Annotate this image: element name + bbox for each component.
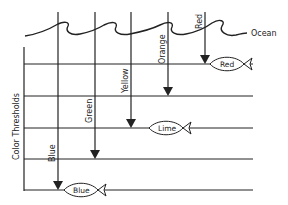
arrowhead-icon [126,119,136,128]
arrow-label-orange: Orange [158,34,167,64]
axis-label: Color Thresholds [12,93,21,160]
arrow-green: Green [85,12,100,159]
arrow-label-green: Green [85,99,94,123]
fish-red: Red [210,57,252,71]
arrow-label-blue: Blue [48,144,57,162]
ocean-label: Ocean [251,29,277,38]
arrowhead-icon [163,87,173,96]
arrow-red: Red [195,12,210,64]
arrowhead-icon [90,150,100,159]
fish-label-lime: Lime [158,124,177,133]
fish-label-blue: Blue [73,186,90,195]
fish-lime: Lime [149,121,191,135]
arrow-label-yellow: Yellow [121,68,130,94]
arrowhead-icon [53,181,63,190]
fish-label-red: Red [220,60,234,69]
fish-blue: Blue [64,183,106,197]
arrow-label-red: Red [195,14,204,29]
arrow-yellow: Yellow [121,12,136,128]
arrowhead-icon [200,55,210,64]
ocean-color-threshold-diagram: Ocean Color Thresholds Blue Green Yellow… [0,0,288,205]
arrow-blue: Blue [48,12,63,190]
